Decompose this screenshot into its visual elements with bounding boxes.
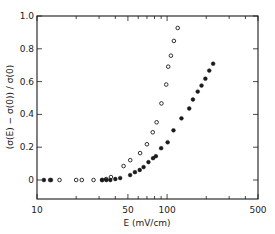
x-axis-label: E (mV/cm) bbox=[123, 218, 170, 228]
filled-data-point bbox=[211, 62, 215, 66]
filled-data-point bbox=[200, 84, 204, 88]
x-tick-label: 50 bbox=[122, 205, 134, 215]
filled-data-point bbox=[49, 178, 53, 182]
open-data-point bbox=[80, 178, 84, 182]
filled-data-point bbox=[113, 177, 117, 181]
x-tick-label: 100 bbox=[158, 205, 175, 215]
filled-data-point bbox=[207, 69, 211, 73]
open-data-point bbox=[58, 178, 62, 182]
filled-data-point bbox=[159, 146, 163, 150]
open-data-point bbox=[92, 178, 96, 182]
y-axis-ticks: 00.20.40.60.81.0 bbox=[20, 11, 258, 185]
y-tick-label: 0.2 bbox=[20, 142, 34, 152]
x-tick-label: 500 bbox=[249, 205, 266, 215]
open-data-point bbox=[164, 83, 168, 87]
y-tick-label: 0 bbox=[28, 175, 34, 185]
filled-data-point bbox=[203, 77, 207, 81]
open-data-point bbox=[166, 65, 170, 69]
filled-data-point bbox=[118, 176, 122, 180]
open-data-point bbox=[122, 164, 126, 168]
filled-data-point bbox=[166, 140, 170, 144]
filled-data-point bbox=[154, 154, 158, 158]
open-data-point bbox=[160, 102, 164, 106]
data-series bbox=[42, 26, 215, 182]
open-data-point bbox=[151, 130, 155, 134]
filled-data-point bbox=[42, 178, 46, 182]
y-tick-label: 1.0 bbox=[20, 11, 35, 21]
plot-border bbox=[37, 16, 258, 199]
filled-data-point bbox=[187, 107, 191, 111]
plot-frame bbox=[37, 16, 258, 199]
filled-data-point bbox=[180, 116, 184, 120]
filled-data-point bbox=[108, 178, 112, 182]
filled-data-point bbox=[100, 178, 104, 182]
open-data-point bbox=[145, 142, 149, 146]
open-data-point bbox=[155, 120, 159, 124]
open-data-point bbox=[172, 39, 176, 43]
filled-circle-series bbox=[42, 62, 215, 182]
filled-data-point bbox=[138, 168, 142, 172]
y-tick-label: 0.8 bbox=[20, 44, 35, 54]
filled-data-point bbox=[133, 170, 137, 174]
y-axis-label: (σ(E) − σ(0)) / σ(0) bbox=[5, 65, 15, 149]
open-data-point bbox=[74, 178, 78, 182]
scatter-chart: 1050100500 00.20.40.60.81.0 E (mV/cm) (σ… bbox=[0, 0, 275, 234]
filled-data-point bbox=[104, 178, 108, 182]
filled-data-point bbox=[128, 173, 132, 177]
filled-data-point bbox=[142, 165, 146, 169]
y-tick-label: 0.4 bbox=[20, 109, 35, 119]
open-data-point bbox=[176, 26, 180, 30]
filled-data-point bbox=[196, 90, 200, 94]
x-axis-ticks: 1050100500 bbox=[31, 16, 267, 215]
filled-data-point bbox=[172, 128, 176, 132]
filled-data-point bbox=[191, 98, 195, 102]
open-circle-series bbox=[48, 26, 179, 182]
open-data-point bbox=[138, 151, 142, 155]
y-tick-label: 0.6 bbox=[20, 77, 35, 87]
open-data-point bbox=[169, 54, 173, 58]
filled-data-point bbox=[147, 160, 151, 164]
open-data-point bbox=[128, 158, 132, 162]
x-tick-label: 10 bbox=[31, 205, 43, 215]
